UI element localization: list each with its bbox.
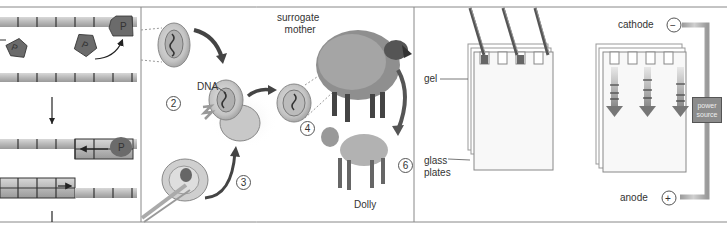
- transfer-arrow-3: [205, 152, 235, 198]
- dna-strand-4: [0, 178, 137, 198]
- free-polymerase-right: P: [72, 30, 101, 59]
- diagram-canvas: P P P: [0, 0, 727, 230]
- dna-strand-2: [0, 73, 137, 82]
- transfer-arrow-2: [248, 90, 271, 96]
- birth-arrow: [398, 70, 405, 130]
- polymerase-panel: P P P: [0, 16, 137, 222]
- power-label-line2: source: [693, 110, 721, 119]
- transfer-arrow-1: [194, 30, 222, 58]
- glass-label-line2: plates: [424, 167, 451, 179]
- surrogate-sheep: [316, 30, 412, 122]
- micropipette-cell: [142, 159, 208, 222]
- donor-cell: [158, 23, 190, 67]
- glass-label-line1: glass: [424, 155, 451, 167]
- surrogate-label-line1: surrogate: [277, 12, 319, 24]
- dolly-lamb: [321, 127, 388, 190]
- surrogate-label-line2: mother: [277, 24, 319, 36]
- gel-right: − +: [596, 18, 707, 205]
- step-4-marker: 4: [300, 121, 315, 136]
- binding-arrow: [95, 41, 122, 59]
- step-6-marker: 6: [398, 158, 413, 173]
- svg-text:+: +: [665, 193, 671, 204]
- power-label-line1: power: [693, 101, 721, 110]
- cloning-panel: DNA: [141, 23, 412, 222]
- cathode-label: cathode: [618, 19, 654, 31]
- svg-text:−: −: [670, 20, 676, 31]
- electrophoresis-panel: − +: [440, 8, 707, 205]
- free-polymerase-left: P: [3, 35, 29, 60]
- power-source-box: power source: [692, 97, 722, 123]
- svg-text:P: P: [118, 142, 125, 153]
- dolly-label: Dolly: [354, 199, 376, 211]
- dna-strand-1: P: [0, 16, 137, 36]
- svg-text:P: P: [120, 21, 127, 32]
- embryo-cell: [277, 84, 311, 122]
- step-2-marker: 2: [166, 96, 181, 111]
- anode-label: anode: [620, 192, 648, 204]
- svg-text:DNA: DNA: [197, 81, 218, 92]
- gel-label: gel: [424, 73, 437, 85]
- dna-strand-3: P: [0, 137, 137, 159]
- glass-plates-label: glass plates: [424, 155, 451, 179]
- step-3-marker: 3: [236, 175, 251, 190]
- gel-left: [440, 8, 553, 170]
- surrogate-mother-label: surrogate mother: [277, 12, 319, 36]
